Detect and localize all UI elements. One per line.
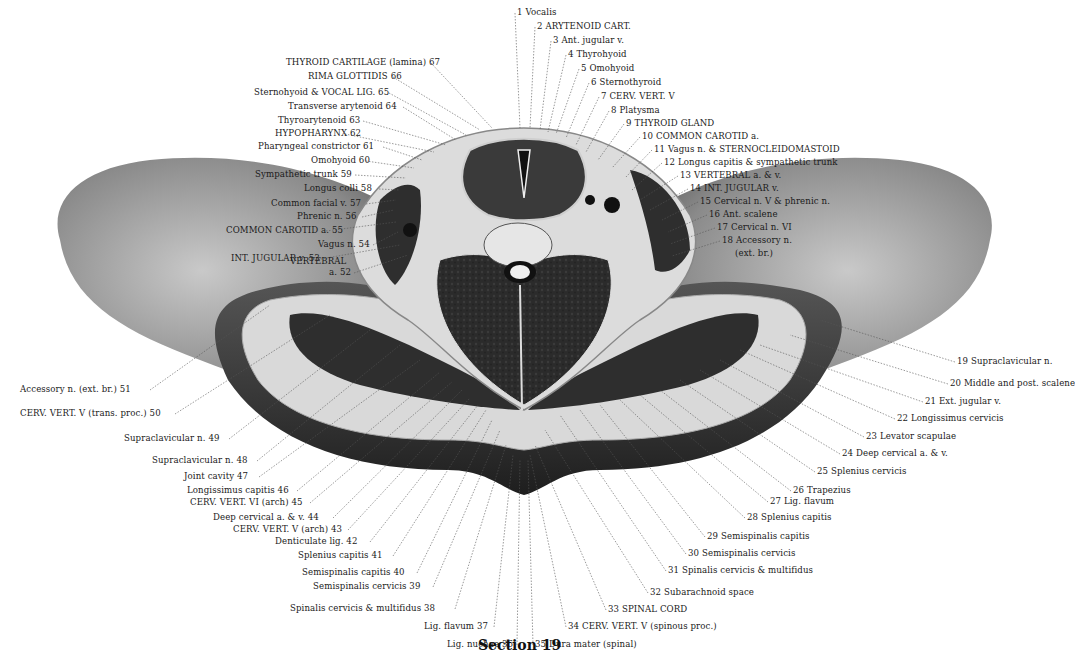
label-left-6: Denticulate lig. 42: [275, 537, 358, 546]
label-right-3: 4 Thyrohyoid: [568, 50, 627, 59]
label-right-33: 33 SPINAL CORD: [608, 605, 687, 614]
label-left-19: Vagus n. 54: [318, 240, 370, 249]
right-vessel: [604, 197, 620, 213]
label-right-0: 1 Vocalis: [517, 8, 557, 17]
leader-line-right-3: [548, 55, 566, 132]
label-right-28: 28 Splenius capitis: [747, 513, 832, 522]
label-right-12: 13 VERTEBRAL a. & v.: [680, 171, 781, 180]
label-left-17: a. 52: [329, 268, 351, 277]
label-right-19: 19 Supraclavicular n.: [957, 357, 1053, 366]
vertebral-body: [484, 223, 552, 267]
label-right-7: 8 Platysma: [611, 106, 660, 115]
label-right-27: 27 Lig. flavum: [770, 497, 834, 506]
leader-line-right-0: [515, 13, 520, 128]
label-right-17: 18 Accessory n.: [722, 236, 792, 245]
label-left-30: Sternohyoid & VOCAL LIG. 65: [254, 88, 389, 97]
label-left-22: Common facial v. 57: [271, 199, 361, 208]
leader-line-right-5: [566, 83, 589, 138]
label-right-20: 20 Middle and post. scalene: [950, 379, 1075, 388]
label-right-6: 7 CERV. VERT. V: [601, 92, 675, 101]
label-right-8: 9 THYROID GLAND: [626, 119, 714, 128]
label-right-26: 26 Trapezius: [793, 486, 851, 495]
label-right-30: 30 Semispinalis cervicis: [688, 549, 795, 558]
label-left-12: Supraclavicular n. 48: [152, 456, 248, 465]
figure-caption: Section 19: [478, 637, 561, 653]
label-left-28: Thyroarytenoid 63: [278, 116, 360, 125]
leader-line-right-1: [530, 27, 535, 128]
label-left-7: CERV. VERT. V (arch) 43: [233, 525, 342, 534]
label-left-32: THYROID CARTILAGE (lamina) 67: [286, 58, 440, 67]
label-right-11: 12 Longus capitis & sympathetic trunk: [664, 158, 838, 167]
leader-line-left-28: [363, 121, 446, 145]
label-left-25: Omohyoid 60: [311, 156, 370, 165]
left-vessel: [403, 223, 417, 237]
label-left-1: Lig. flavum 37: [424, 622, 488, 631]
label-left-24: Sympathetic trunk 59: [255, 170, 352, 179]
label-right-1: 2 ARYTENOID CART.: [537, 22, 631, 31]
label-right-5: 6 Sternothyroid: [591, 78, 661, 87]
label-right-2: 3 Ant. jugular v.: [553, 36, 624, 45]
leader-line-right-2: [540, 41, 551, 130]
label-right-9: 10 COMMON CAROTID a.: [642, 132, 759, 141]
label-right-21: 21 Ext. jugular v.: [925, 397, 1001, 406]
label-left-27: HYPOPHARYNX 62: [275, 129, 361, 138]
label-right-16: 17 Cervical n. VI: [717, 223, 792, 232]
leader-line-left-32: [431, 63, 492, 128]
label-right-32: 32 Subarachnoid space: [650, 588, 754, 597]
label-left-31: RIMA GLOTTIDIS 66: [308, 72, 402, 81]
right-vessel-2: [585, 195, 595, 205]
label-left-4: Semispinalis capitis 40: [302, 568, 405, 577]
label-left-15: Accessory n. (ext. br.) 51: [20, 385, 131, 394]
label-left-11: Joint cavity 47: [184, 472, 248, 481]
spinal-cord: [510, 265, 530, 279]
label-left-5: Splenius capitis 41: [298, 551, 383, 560]
leader-line-right-4: [556, 69, 579, 134]
label-left-10: Longissimus capitis 46: [187, 486, 289, 495]
label-left-29: Transverse arytenoid 64: [288, 102, 397, 111]
label-right-23: 23 Levator scapulae: [866, 432, 956, 441]
label-right-14: 15 Cervical n. V & phrenic n.: [700, 197, 830, 206]
label-left-8: Deep cervical a. & v. 44: [213, 513, 319, 522]
label-left-2: Spinalis cervicis & multifidus 38: [290, 604, 435, 613]
label-left-14: CERV. VERT. V (trans. proc.) 50: [20, 409, 161, 418]
leader-line-left-29: [403, 107, 456, 140]
label-right-10: 11 Vagus n. & STERNOCLEIDOMASTOID: [654, 145, 840, 154]
label-left-23: Longus colli 58: [304, 184, 372, 193]
label-left-21: Phrenic n. 56: [297, 212, 357, 221]
label-left-26: Pharyngeal constrictor 61: [258, 142, 374, 151]
leader-line-left-30: [389, 93, 466, 135]
label-right-15: 16 Ant. scalene: [709, 210, 778, 219]
label-right-29: 29 Semispinalis capitis: [707, 532, 810, 541]
label-right-22: 22 Longissimus cervicis: [897, 414, 1004, 423]
label-left-3: Semispinalis cervicis 39: [313, 582, 420, 591]
label-right-4: 5 Omohyoid: [581, 64, 634, 73]
label-right-18: (ext. br.): [735, 249, 773, 258]
leader-line-left-31: [393, 77, 480, 130]
label-right-31: 31 Spinalis cervicis & multifidus: [668, 566, 813, 575]
label-right-24: 24 Deep cervical a. & v.: [842, 449, 948, 458]
label-right-25: 25 Splenius cervicis: [817, 467, 906, 476]
label-left-13: Supraclavicular n. 49: [124, 434, 220, 443]
label-left-20: COMMON CAROTID a. 55: [226, 226, 343, 235]
label-right-13: 14 INT. JUGULAR v.: [690, 184, 779, 193]
label-left-9: CERV. VERT. VI (arch) 45: [190, 498, 303, 507]
label-left-18: INT. JUGULAR v. 53: [231, 254, 320, 263]
label-right-34: 34 CERV. VERT. V (spinous proc.): [568, 622, 717, 631]
